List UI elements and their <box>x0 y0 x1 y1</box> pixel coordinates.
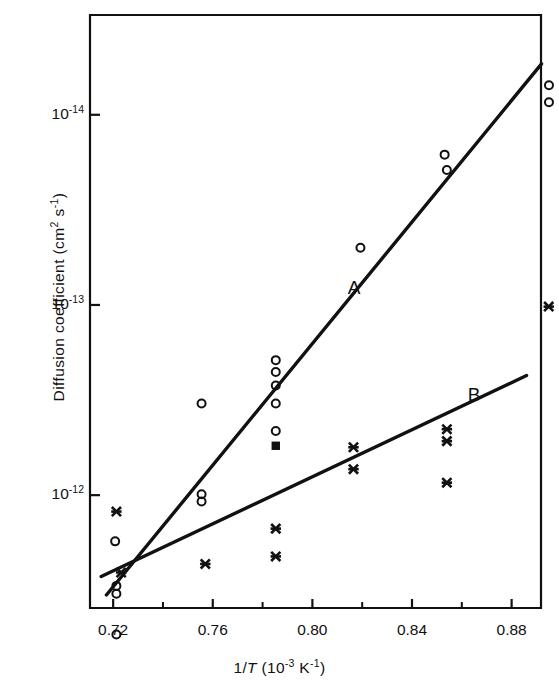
series-annotations: AB <box>348 277 481 405</box>
data-point-cross <box>544 302 554 311</box>
data-point-cross <box>442 437 452 446</box>
tick-marks <box>90 115 512 608</box>
data-point-circle <box>356 244 364 252</box>
data-point-circle <box>272 400 280 408</box>
data-point-circle <box>272 368 280 376</box>
y-tick-label: 10-14 <box>52 105 84 123</box>
y-tick-label: 10-12 <box>52 485 84 503</box>
data-point-circle <box>112 590 120 598</box>
data-point-circle <box>443 166 451 174</box>
data-point-circle <box>545 98 553 106</box>
data-point-cross <box>200 559 210 568</box>
data-point-circle <box>272 427 280 435</box>
x-tick-label: 0.84 <box>372 621 452 639</box>
fit-lines <box>101 64 541 595</box>
x-tick-label: 0.76 <box>173 621 253 639</box>
data-point-cross <box>442 478 452 487</box>
x-tick-label: 0.80 <box>272 621 352 639</box>
x-tick-label: 0.72 <box>73 621 153 639</box>
data-point-cross <box>442 425 452 434</box>
data-point-circle <box>111 537 119 545</box>
data-point-circle <box>545 81 553 89</box>
data-point-circle <box>441 151 449 159</box>
plot-frame <box>90 15 541 608</box>
data-point-square <box>272 442 280 450</box>
x-axis-title: 1/T (10-3 K-1) <box>0 659 559 677</box>
fit-line-b <box>101 376 526 577</box>
data-point-cross <box>348 465 358 474</box>
data-point-circle <box>272 356 280 364</box>
series-label-b: B <box>468 384 481 405</box>
data-point-cross <box>348 443 358 452</box>
fit-line-a <box>106 64 541 595</box>
y-axis-title: Diffusion coefficient (cm2 s-1) <box>50 132 68 462</box>
figure-container: AB 10-1210-1310-14 0.720.760.800.840.88 … <box>0 0 559 695</box>
x-tick-label: 0.88 <box>472 621 552 639</box>
data-markers <box>111 81 554 638</box>
data-point-cross <box>271 524 281 533</box>
data-point-cross <box>271 552 281 561</box>
data-point-cross <box>111 507 121 516</box>
series-label-a: A <box>348 277 361 298</box>
data-point-circle <box>198 400 206 408</box>
